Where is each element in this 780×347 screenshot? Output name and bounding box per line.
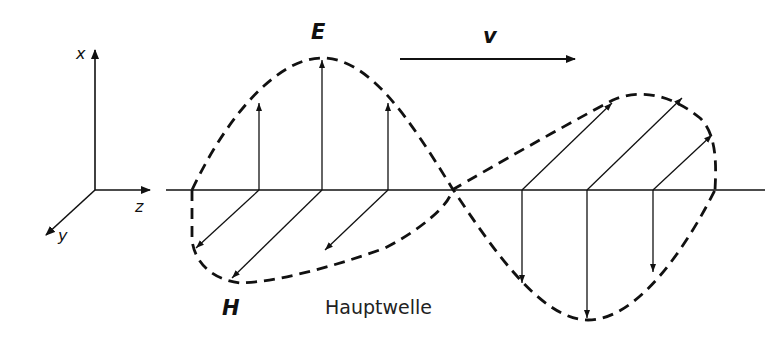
- e-field-label: E: [311, 20, 325, 44]
- caption: Hauptwelle: [325, 296, 432, 318]
- velocity-label: v: [483, 24, 497, 48]
- x-axis-label: x: [76, 44, 85, 63]
- h-field-envelope: [192, 94, 716, 283]
- z-axis-label: z: [135, 197, 143, 216]
- y-axis: [46, 190, 95, 235]
- y-axis-label: y: [58, 226, 67, 245]
- wave-drawing: [0, 0, 780, 347]
- wave-diagram: x z y E v H Hauptwelle: [0, 0, 780, 347]
- h-field-label: H: [222, 296, 240, 320]
